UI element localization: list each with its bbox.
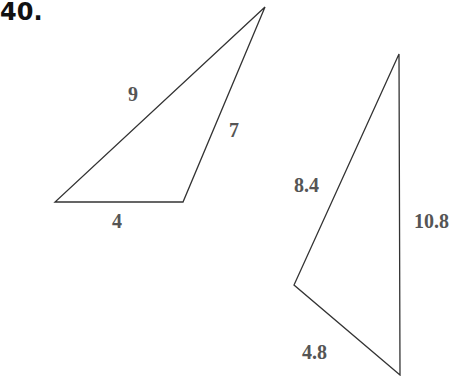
diagram-canvas: 40. 4 7 9 8.4 10.8 4.8 bbox=[0, 0, 462, 376]
triangle-2-side-10-8-label: 10.8 bbox=[414, 210, 449, 232]
triangle-1-side-7-label: 7 bbox=[229, 119, 239, 141]
triangle-1-side-9-label: 9 bbox=[128, 83, 138, 105]
triangle-1 bbox=[55, 7, 265, 202]
triangle-2-side-8-4-label: 8.4 bbox=[294, 174, 319, 196]
triangle-2-side-4-8-label: 4.8 bbox=[302, 341, 327, 363]
triangle-2 bbox=[294, 54, 400, 375]
triangle-1-side-4-label: 4 bbox=[112, 210, 122, 232]
triangles-figure: 4 7 9 8.4 10.8 4.8 bbox=[0, 0, 462, 376]
